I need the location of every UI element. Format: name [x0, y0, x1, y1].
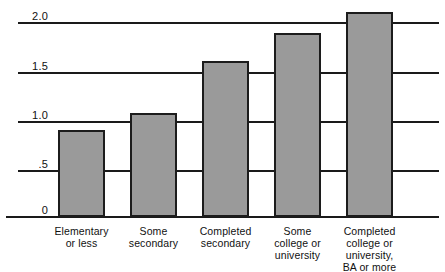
- ytick-label-0.5: .5: [38, 159, 48, 170]
- x-axis-labels: Elementaryor less Somesecondary Complete…: [0, 221, 445, 272]
- bar-0: [58, 130, 105, 217]
- bar-3: [274, 33, 321, 217]
- ytick-label-0: 0: [42, 205, 48, 216]
- bar-1: [130, 113, 177, 217]
- xlabel-4: Completedcollege oruniversity,BA or more: [326, 225, 414, 272]
- ytick-label-1.5: 1.5: [32, 61, 48, 72]
- plot-area: 2.0 1.5 1.0 .5 0: [0, 0, 445, 220]
- bar-4: [346, 12, 393, 217]
- bar-2: [202, 61, 249, 217]
- bar-chart: 2.0 1.5 1.0 .5 0 Elementaryor less Somes…: [0, 0, 445, 272]
- ytick-label-1.0: 1.0: [32, 110, 48, 121]
- ytick-label-2.0: 2.0: [32, 11, 48, 22]
